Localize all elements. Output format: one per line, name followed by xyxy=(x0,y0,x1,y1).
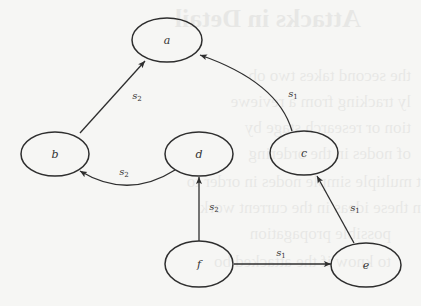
node-d: d xyxy=(165,132,233,176)
edge-c-to-a: s1 xyxy=(200,55,298,131)
node-label: f xyxy=(196,258,203,271)
node-b: b xyxy=(21,132,89,176)
edge-line xyxy=(200,55,292,131)
edge-b-to-a: s2 xyxy=(80,61,145,133)
edge-d-to-b: s2 xyxy=(80,166,175,185)
node-c: c xyxy=(270,131,338,175)
edge-e-to-c: s1 xyxy=(317,176,360,243)
edge-f-to-e: s1 xyxy=(234,247,331,264)
node-f: f xyxy=(165,241,233,287)
node-label: a xyxy=(164,34,171,47)
state-transition-diagram: s2 s1 s2 s2 s1 s1 a b c d e xyxy=(0,0,421,306)
edge-label: s2 xyxy=(132,90,142,103)
edge-label: s1 xyxy=(350,202,360,215)
node-e: e xyxy=(331,243,401,287)
edge-f-to-d: s2 xyxy=(199,177,219,241)
node-label: d xyxy=(195,148,202,161)
edge-label: s1 xyxy=(288,88,298,101)
node-a: a xyxy=(132,18,202,62)
edge-label: s2 xyxy=(209,201,219,214)
edge-line xyxy=(317,176,354,243)
edge-label: s1 xyxy=(276,247,286,260)
node-label: c xyxy=(301,147,307,160)
edge-label: s2 xyxy=(119,166,129,179)
node-label: e xyxy=(363,259,370,272)
node-label: b xyxy=(51,148,58,161)
